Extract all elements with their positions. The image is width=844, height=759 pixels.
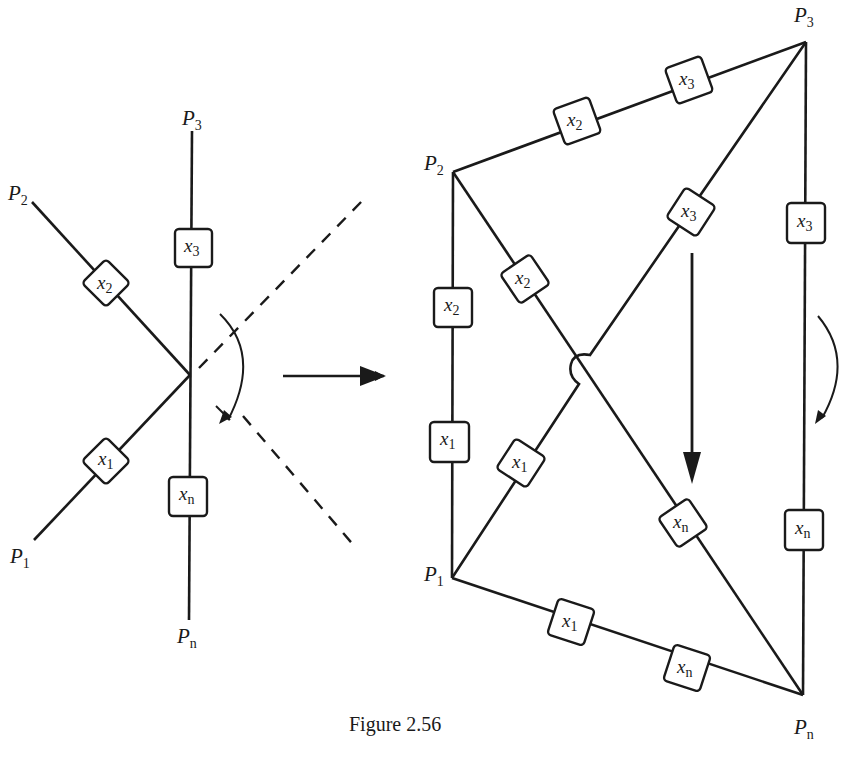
star-branch-p3-pn <box>189 131 192 620</box>
star-mesh-diagram: x2 x3 x1 xn P2 P3 P1 Pn x2 x3 <box>0 0 844 759</box>
star-node-p3: P3 <box>181 106 202 133</box>
mesh-edge-p3-pn <box>803 42 806 695</box>
star-network <box>32 131 192 620</box>
mesh-node-p3: P3 <box>793 3 814 30</box>
dashed-fold-line-lower <box>243 416 356 548</box>
star-node-pn: Pn <box>176 624 197 651</box>
rotation-arrow-right-icon <box>818 316 838 418</box>
mesh-edge-p1-p3 <box>452 42 806 578</box>
mesh-edge-p2-pn <box>453 172 803 695</box>
rotation-arrow-icon <box>220 314 243 420</box>
mesh-node-p2: P2 <box>423 151 444 178</box>
mesh-network <box>452 42 806 695</box>
mesh-node-pn: Pn <box>793 715 814 742</box>
star-node-p2: P2 <box>7 181 28 208</box>
mesh-node-p1: P1 <box>423 562 444 589</box>
mesh-edge-p1-pn <box>452 578 803 695</box>
mesh-edge-p2-p3 <box>453 42 806 172</box>
dashed-fold-line-upper <box>199 200 363 368</box>
transform-arrowhead-icon <box>360 366 386 386</box>
down-arrowhead-icon <box>683 452 701 484</box>
star-node-p1: P1 <box>9 544 30 571</box>
mesh-edge-p2-p1 <box>452 172 453 578</box>
figure-caption: Figure 2.56 <box>349 713 441 736</box>
